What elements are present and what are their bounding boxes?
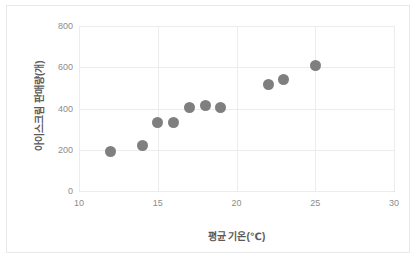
gridline-x-30 [394,26,395,191]
x-tick-label: 30 [374,198,414,208]
y-axis-title: 아이스크림 판매량(개) [31,31,46,181]
gridline-x-25 [315,26,316,191]
x-tick-label: 20 [217,198,257,208]
data-point [200,100,211,111]
gridline-x-15 [158,26,159,191]
y-tick-label: 800 [27,21,73,31]
gridline-y-0 [79,191,394,192]
x-axis-title: 평균 기온(℃) [79,228,394,243]
data-point [310,60,321,71]
chart-frame: 0200400600800 1015202530 평균 기온(℃) 아이스크림 … [6,5,410,253]
gridline-x-20 [237,26,238,191]
gridline-x-10 [79,26,80,191]
data-point [263,79,274,90]
scatter-chart: 0200400600800 1015202530 평균 기온(℃) 아이스크림 … [7,6,411,254]
data-point [137,140,148,151]
x-tick-label: 25 [295,198,335,208]
data-point [184,102,195,113]
x-tick-label: 15 [138,198,178,208]
y-tick-label: 0 [27,186,73,196]
x-tick-label: 10 [59,198,99,208]
